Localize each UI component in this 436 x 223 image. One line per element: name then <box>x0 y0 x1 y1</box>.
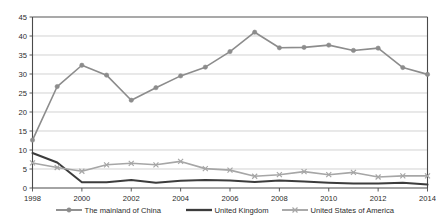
legend-label: The mainland of China <box>85 206 162 215</box>
chart-legend: The mainland of ChinaUnited KingdomUnite… <box>56 206 395 215</box>
gridlines <box>33 17 428 169</box>
x-tick-label: 2000 <box>73 194 90 203</box>
y-axis-labels: 051015202530354045 <box>19 13 27 193</box>
y-tick-label: 10 <box>19 146 27 155</box>
data-point <box>104 73 108 77</box>
chart-canvas: 051015202530354045 199820002002200420062… <box>0 0 436 223</box>
data-point <box>129 98 133 102</box>
x-tick-label: 2002 <box>123 194 140 203</box>
y-tick-label: 40 <box>19 32 27 41</box>
data-point <box>178 74 182 78</box>
legend-item-united-kingdom[interactable]: United Kingdom <box>186 206 269 215</box>
x-tick-label: 1998 <box>24 194 41 203</box>
data-series-layer <box>30 30 430 185</box>
data-point <box>30 138 34 142</box>
series-line <box>33 32 428 140</box>
legend-label: United Kingdom <box>215 206 269 215</box>
y-tick-label: 5 <box>23 165 27 174</box>
data-point <box>376 46 380 50</box>
y-tick-label: 0 <box>23 184 27 193</box>
series-china <box>30 30 429 142</box>
x-tick-label: 2012 <box>370 194 387 203</box>
y-tick-label: 25 <box>19 89 27 98</box>
x-tick-label: 2010 <box>320 194 337 203</box>
data-point <box>154 86 158 90</box>
data-point <box>228 49 232 53</box>
y-tick-label: 35 <box>19 51 27 60</box>
data-point <box>277 46 281 50</box>
legend-item-china[interactable]: The mainland of China <box>56 206 162 215</box>
y-tick-label: 45 <box>19 13 27 22</box>
data-point <box>401 65 405 69</box>
x-tick-label: 2006 <box>222 194 239 203</box>
x-tick-label: 2014 <box>419 194 436 203</box>
y-tick-label: 15 <box>19 127 27 136</box>
line-chart: 051015202530354045 199820002002200420062… <box>0 0 436 223</box>
data-point <box>425 72 429 76</box>
data-point <box>327 43 331 47</box>
axis-lines <box>33 17 428 188</box>
x-tick-label: 2008 <box>271 194 288 203</box>
data-point <box>80 63 84 67</box>
y-tick-label: 20 <box>19 108 27 117</box>
y-tick-label: 30 <box>19 70 27 79</box>
legend-label: United States of America <box>311 206 395 215</box>
x-tick-label: 2004 <box>172 194 189 203</box>
legend-marker <box>67 208 71 212</box>
data-point <box>351 48 355 52</box>
legend-item-united-states[interactable]: United States of America <box>282 206 395 215</box>
data-point <box>203 65 207 69</box>
x-axis-labels: 199820002002200420062008201020122014 <box>24 194 436 203</box>
data-point <box>302 45 306 49</box>
data-point <box>55 84 59 88</box>
data-point <box>253 30 257 34</box>
